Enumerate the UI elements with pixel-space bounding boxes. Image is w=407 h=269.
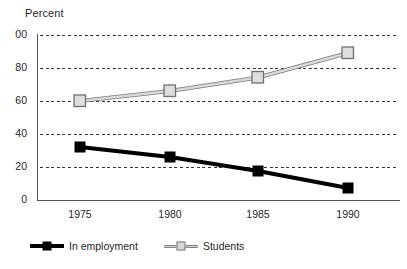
students-marker-1975 (74, 95, 86, 107)
chart-legend: In employment Students (30, 240, 244, 252)
in-employment-marker-1975 (75, 142, 86, 153)
legend-label-in-employment: In employment (69, 240, 138, 252)
legend-label-students: Students (203, 240, 244, 252)
legend-marker-in-employment (30, 240, 64, 252)
students-line-outline (80, 53, 348, 101)
plot-area (0, 0, 407, 269)
legend-item-in-employment[interactable]: In employment (30, 240, 138, 252)
legend-item-students[interactable]: Students (164, 240, 244, 252)
students-marker-1990 (342, 47, 354, 59)
percent-line-chart: Percent 00 80 60 40 20 0 1975 1980 1985 … (0, 0, 407, 269)
in-employment-marker-1985 (253, 166, 264, 177)
students-marker-1985 (252, 72, 264, 84)
series-students (74, 47, 354, 107)
in-employment-marker-1980 (165, 152, 176, 163)
in-employment-marker-1990 (343, 183, 354, 194)
students-marker-1980 (164, 85, 176, 97)
students-line (80, 53, 348, 101)
legend-marker-students (164, 240, 198, 252)
